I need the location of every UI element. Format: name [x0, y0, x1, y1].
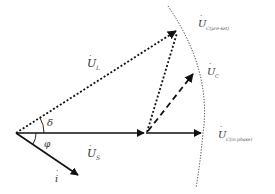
- label-i: i ·: [55, 167, 58, 184]
- label-uc-in-phase: U · C(in-phase): [218, 123, 252, 142]
- svg-text:C(in-phase): C(in-phase): [226, 137, 252, 142]
- phasor-diagram: δ φ U · L U · S U · C U · C(pre-set) U ·…: [0, 0, 275, 194]
- label-delta: δ: [47, 117, 53, 128]
- svg-text:·: ·: [56, 167, 58, 175]
- label-ul: U · L: [87, 51, 100, 71]
- label-uc-pre-set: U · C(pre-set): [198, 12, 229, 31]
- angle-delta-arc: [40, 118, 44, 133]
- svg-text:·: ·: [209, 60, 211, 68]
- phasor-ul: [16, 31, 176, 133]
- angle-phi-arc: [33, 133, 36, 144]
- svg-text:·: ·: [89, 141, 92, 150]
- svg-text:·: ·: [220, 123, 222, 131]
- svg-text:L: L: [95, 64, 100, 71]
- label-uc: U · C: [207, 60, 219, 79]
- phasor-uc-pre-set: [147, 33, 177, 132]
- svg-text:S: S: [96, 154, 100, 161]
- svg-text:·: ·: [89, 51, 92, 60]
- label-us: U · S: [87, 141, 100, 161]
- svg-text:C(pre-set): C(pre-set): [206, 26, 229, 31]
- label-phi: φ: [44, 139, 51, 149]
- locus-arc: [168, 6, 205, 188]
- svg-text:C: C: [215, 73, 219, 79]
- svg-text:·: ·: [200, 12, 202, 20]
- phasor-uc: [148, 74, 193, 131]
